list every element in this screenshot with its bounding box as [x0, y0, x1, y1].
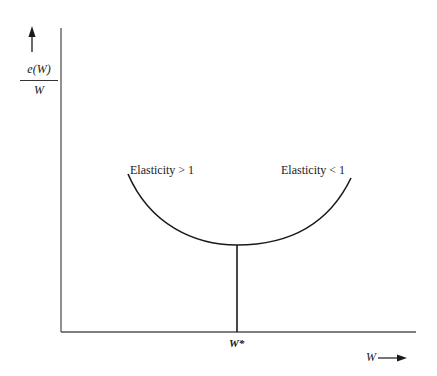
y-label-numerator: e(W) [20, 62, 58, 77]
y-arrow-head-icon [29, 26, 36, 37]
diagram-canvas [0, 0, 437, 376]
minimum-point-label: W* [229, 337, 244, 349]
y-label-denominator: W [20, 83, 58, 98]
elasticity-curve [128, 174, 351, 245]
x-arrow-head-icon [397, 355, 407, 362]
y-axis-label: e(W) W [20, 62, 58, 98]
x-axis-label: W [366, 350, 376, 365]
left-curve-label: Elasticity > 1 [130, 163, 194, 178]
right-curve-label: Elasticity < 1 [281, 163, 345, 178]
fraction-bar [20, 80, 58, 81]
